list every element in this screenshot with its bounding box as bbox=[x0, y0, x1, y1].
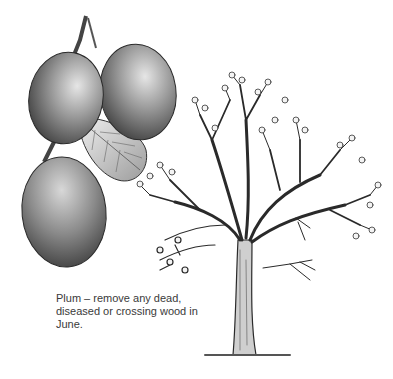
caption-line: June. bbox=[56, 318, 226, 331]
plum-fruit bbox=[16, 153, 111, 271]
trunk bbox=[233, 240, 256, 355]
stem bbox=[88, 18, 96, 48]
pruned-branch bbox=[263, 218, 315, 280]
plum-fruit-cluster bbox=[16, 16, 182, 271]
figure-caption: Plum – remove any dead, diseased or cros… bbox=[56, 292, 226, 331]
pruned-branch bbox=[157, 225, 225, 273]
caption-line: Plum – remove any dead, bbox=[56, 292, 226, 305]
caption-line: diseased or crossing wood in bbox=[56, 305, 226, 318]
stem bbox=[74, 16, 86, 55]
